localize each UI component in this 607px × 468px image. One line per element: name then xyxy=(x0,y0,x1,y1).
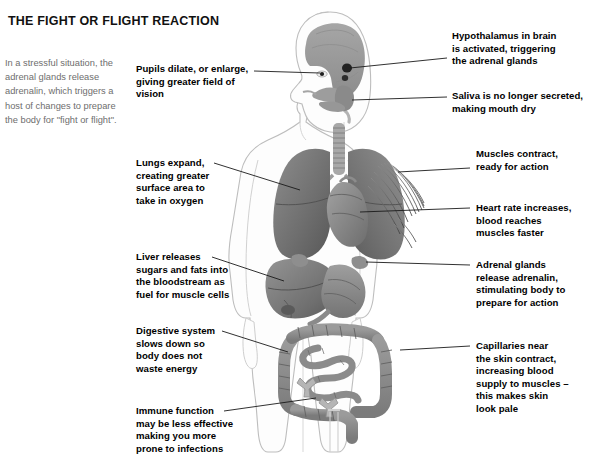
callout-pupils: Pupils dilate, or enlarge, giving greate… xyxy=(136,63,256,101)
callout-capillaries-line-1: Capillaries near xyxy=(476,340,598,353)
callout-pupils-line-1: Pupils dilate, or enlarge, xyxy=(136,63,256,76)
callout-adrenal-line-1: Adrenal glands xyxy=(476,259,598,272)
intro-paragraph: In a stressful situation, the adrenal gl… xyxy=(5,56,129,127)
callout-hypothalamus-line-1: Hypothalamus in brain xyxy=(452,30,602,43)
callout-capillaries-line-5: this makes skin xyxy=(476,390,598,403)
leader-line-adrenal xyxy=(366,262,470,265)
callout-immune-line-3: making you more xyxy=(136,430,254,443)
callout-heart-line-2: blood reaches xyxy=(476,215,601,228)
callout-muscles-line-1: Muscles contract, xyxy=(476,148,601,161)
callout-digestive-line-1: Digestive system xyxy=(136,325,246,338)
callout-liver-line-4: fuel for muscle cells xyxy=(136,289,246,302)
callout-hypothalamus-line-3: the adrenal glands xyxy=(452,55,602,68)
callout-immune-line-2: may be less effective xyxy=(136,418,254,431)
callout-liver-line-1: Liver releases xyxy=(136,251,246,264)
callout-adrenal-line-4: prepare for action xyxy=(476,297,598,310)
callout-liver-line-2: sugars and fats into xyxy=(136,264,246,277)
callout-liver-line-3: the bloodstream as xyxy=(136,276,246,289)
callout-digestive-line-4: waste energy xyxy=(136,363,246,376)
callout-lungs-line-4: take in oxygen xyxy=(136,195,236,208)
callout-capillaries-line-2: the skin contract, xyxy=(476,353,598,366)
callout-saliva-line-2: making mouth dry xyxy=(452,103,604,116)
page-title: THE FIGHT OR FLIGHT REACTION xyxy=(8,14,219,28)
leader-line-capillaries xyxy=(400,346,470,350)
callout-muscles: Muscles contract, ready for action xyxy=(476,148,601,173)
callout-saliva: Saliva is no longer secreted, making mou… xyxy=(452,90,604,115)
callout-hypothalamus-line-2: is activated, triggering xyxy=(452,43,602,56)
callout-heart-line-1: Heart rate increases, xyxy=(476,202,601,215)
callout-lungs-line-2: creating greater xyxy=(136,170,236,183)
callout-capillaries-line-3: increasing blood xyxy=(476,365,598,378)
callout-adrenal-line-2: release adrenalin, xyxy=(476,272,598,285)
callout-capillaries-line-6: look pale xyxy=(476,403,598,416)
callout-heart: Heart rate increases, blood reaches musc… xyxy=(476,202,601,240)
callout-capillaries-line-4: supply to muscles – xyxy=(476,378,598,391)
callout-heart-line-3: muscles faster xyxy=(476,227,601,240)
callout-adrenal: Adrenal glands release adrenalin, stimul… xyxy=(476,259,598,309)
leader-line-muscles xyxy=(398,168,470,172)
diagram-canvas: THE FIGHT OR FLIGHT REACTION In a stress… xyxy=(0,0,607,468)
callout-digestive-line-3: body does not xyxy=(136,350,246,363)
callout-lungs: Lungs expand, creating greater surface a… xyxy=(136,157,236,207)
callout-digestive-line-2: slows down so xyxy=(136,338,246,351)
callout-pupils-line-2: giving greater field of vision xyxy=(136,76,256,101)
callout-muscles-line-2: ready for action xyxy=(476,161,601,174)
callout-lungs-line-1: Lungs expand, xyxy=(136,157,236,170)
eye xyxy=(317,71,327,77)
callout-immune-line-1: Immune function xyxy=(136,405,254,418)
callout-capillaries: Capillaries near the skin contract, incr… xyxy=(476,340,598,416)
callout-immune-line-4: prone to infections xyxy=(136,443,254,456)
callout-immune: Immune function may be less effective ma… xyxy=(136,405,254,455)
callout-hypothalamus: Hypothalamus in brain is activated, trig… xyxy=(452,30,602,68)
callout-digestive: Digestive system slows down so body does… xyxy=(136,325,246,375)
callout-liver: Liver releases sugars and fats into the … xyxy=(136,251,246,301)
callout-adrenal-line-3: stimulating body to xyxy=(476,284,598,297)
callout-lungs-line-3: surface area to xyxy=(136,182,236,195)
callout-saliva-line-1: Saliva is no longer secreted, xyxy=(452,90,604,103)
